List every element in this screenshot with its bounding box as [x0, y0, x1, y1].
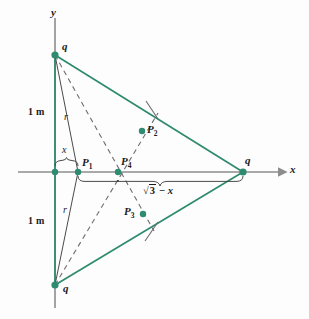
- charge-dot-top[interactable]: [51, 51, 58, 58]
- segment-label-sqrt3-minus-x: √3 − x: [143, 186, 173, 197]
- radical-sign: √: [143, 185, 149, 196]
- charge-dot-bottom[interactable]: [51, 281, 58, 288]
- radius-label-upper: r: [64, 112, 68, 122]
- field-point-label-p3: P3: [124, 206, 134, 220]
- field-point-dot-p4[interactable]: [115, 169, 121, 175]
- charge-label-top: q: [62, 41, 68, 52]
- dashed-line-bottom-to-upper-side: [55, 113, 158, 285]
- p2-letter: P: [147, 123, 154, 135]
- p3-subscript: 3: [131, 211, 135, 220]
- field-point-label-p1: P1: [82, 157, 92, 171]
- diagram-canvas: [0, 0, 309, 319]
- radius-label-lower: r: [63, 205, 67, 215]
- field-point-label-p4: P4: [121, 156, 131, 170]
- brace-x-segment: [55, 158, 78, 167]
- y-axis-label: y: [51, 7, 56, 18]
- p1-subscript: 1: [89, 162, 93, 171]
- field-point-label-p2: P2: [147, 124, 157, 138]
- charge-label-right: q: [245, 155, 251, 166]
- triangle-upper-side: [55, 55, 243, 172]
- charge-label-bottom: q: [63, 283, 69, 294]
- radius-line-lower: [55, 172, 78, 285]
- segment-label-x: x: [62, 145, 66, 155]
- charge-dot-right[interactable]: [239, 168, 246, 175]
- field-point-dot-p1[interactable]: [75, 169, 81, 175]
- dimension-label-lower-side: 1 m: [28, 216, 45, 226]
- p2-subscript: 2: [154, 129, 158, 138]
- p4-subscript: 4: [128, 161, 132, 170]
- physics-diagram-figure: x y q q q P1 P2 P3 P4 1 m 1 m r r x √3 −…: [0, 0, 309, 319]
- field-point-dot-p3[interactable]: [140, 211, 146, 217]
- p3-letter: P: [124, 205, 131, 217]
- minus-x-part: − x: [156, 185, 173, 196]
- p4-letter: P: [121, 155, 128, 167]
- x-axis-label: x: [290, 164, 296, 175]
- radicand: 3: [149, 184, 156, 196]
- dimension-label-upper-side: 1 m: [28, 107, 45, 117]
- p1-letter: P: [82, 156, 89, 168]
- perpendicular-tick-lower: [145, 222, 158, 241]
- origin-dot: [52, 169, 58, 175]
- field-point-dot-p2[interactable]: [139, 128, 145, 134]
- dashed-line-top-to-lower-side: [55, 55, 154, 231]
